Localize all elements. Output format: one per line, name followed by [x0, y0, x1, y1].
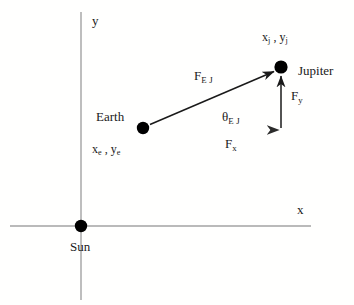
body-dot-jupiter [274, 60, 287, 73]
earth-coord-y: y [111, 142, 117, 156]
fx-subscript: x [232, 143, 237, 153]
earth-coord-sep: , [102, 142, 111, 156]
diagram-svg [0, 0, 354, 305]
angle-label-theta-ej: θE J [222, 110, 240, 123]
earth-coord-x-sub: e [98, 148, 102, 157]
y-axis-label: y [92, 14, 99, 27]
fy-subscript: y [298, 95, 303, 105]
vector-label-fej: FE J [194, 69, 213, 82]
coordinate-label-earth: xe , ye [92, 143, 121, 155]
body-dot-earth [137, 122, 149, 134]
body-dot-sun [75, 220, 87, 232]
fej-subscript: E J [201, 75, 213, 85]
figure-canvas: y x Sun Earth Jupiter xe , ye xj , yj FE… [0, 0, 354, 305]
earth-coord-y-sub: e [117, 148, 121, 157]
body-label-sun: Sun [70, 240, 90, 253]
coordinate-label-jupiter: xj , yj [262, 31, 288, 43]
vector-label-fx: Fx [225, 137, 237, 150]
theta-subscript: E J [228, 116, 240, 126]
vector-label-fy: Fy [291, 89, 303, 102]
jupiter-coord-y-sub: j [285, 36, 287, 45]
x-axis-label: x [297, 203, 304, 216]
body-label-jupiter: Jupiter [298, 64, 333, 77]
body-label-earth: Earth [96, 110, 124, 123]
